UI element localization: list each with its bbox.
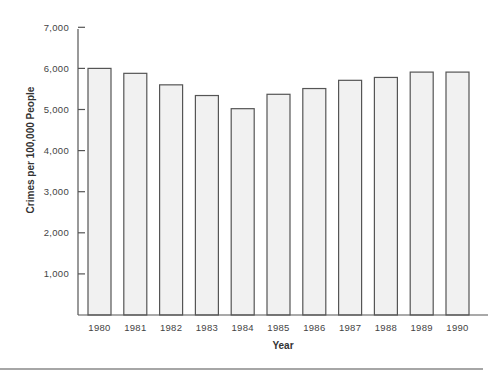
- bar-1983: [195, 96, 218, 315]
- x-tick-label: 1988: [375, 322, 397, 333]
- y-tick-label: 2,000: [44, 227, 69, 238]
- x-tick-label: 1980: [88, 322, 110, 333]
- x-tick-label: 1990: [446, 322, 468, 333]
- y-axis-title: Crimes per 100,000 People: [25, 86, 36, 213]
- bars: [88, 68, 469, 315]
- bar-1987: [339, 80, 362, 315]
- x-axis-tick-labels: 1980198119821983198419851986198719881989…: [88, 322, 468, 333]
- bar-1982: [160, 85, 183, 315]
- y-tick-label: 3,000: [44, 186, 69, 197]
- bar-1984: [231, 109, 254, 315]
- bar-chart: 1,0002,0003,0004,0005,0006,0007,000 1980…: [0, 0, 502, 370]
- x-tick-label: 1981: [124, 322, 146, 333]
- x-tick-label: 1987: [339, 322, 361, 333]
- x-axis-title: Year: [272, 340, 293, 351]
- bar-1990: [446, 72, 469, 315]
- bar-1985: [267, 94, 290, 315]
- bar-1988: [374, 77, 397, 315]
- x-tick-label: 1989: [411, 322, 433, 333]
- bar-1981: [124, 73, 147, 315]
- y-tick-label: 4,000: [44, 145, 69, 156]
- x-tick-label: 1985: [267, 322, 289, 333]
- x-tick-label: 1986: [303, 322, 325, 333]
- y-tick-label: 1,000: [44, 268, 69, 279]
- y-axis-ticks: 1,0002,0003,0004,0005,0006,0007,000: [44, 22, 85, 280]
- bar-1980: [88, 68, 111, 315]
- y-tick-label: 6,000: [44, 63, 69, 74]
- bar-1989: [410, 72, 433, 315]
- x-tick-label: 1982: [160, 322, 182, 333]
- bar-1986: [303, 89, 326, 315]
- y-tick-label: 5,000: [44, 104, 69, 115]
- x-tick-label: 1983: [196, 322, 218, 333]
- y-tick-label: 7,000: [44, 22, 69, 33]
- x-tick-label: 1984: [232, 322, 254, 333]
